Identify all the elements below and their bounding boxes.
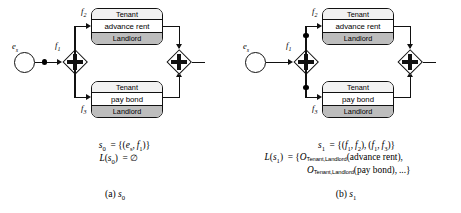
task-lane-landlord-b: Landlord	[323, 33, 393, 44]
state-formula-b-line1: s1 = {(f1, f2), (f1, f3)}	[231, 140, 461, 152]
task-pay-bond: Tenant pay bond Landlord	[91, 81, 163, 118]
task-lane-landlord-2: Landlord	[92, 106, 162, 117]
top-flow-label-f2-b: f2	[312, 6, 317, 18]
figure-panel-a: es f1	[0, 0, 230, 213]
task-name-pay-bond-b: pay bond	[323, 93, 393, 106]
join-parallel-gateway-plus-icon-vertical	[177, 54, 181, 70]
sequence-flow-advance-rent-to-join-h	[163, 26, 180, 27]
bpmn-diagram-a: es f1	[0, 0, 230, 128]
sequence-flow-split-up-vertical-b	[305, 26, 306, 62]
split-gateway-label-b: f1	[286, 40, 291, 52]
figure-container: es f1	[0, 0, 461, 213]
bottom-flow-label-f3: f3	[81, 103, 86, 115]
join-gateway-b	[397, 49, 423, 75]
roles-subscript-paybond: Tenant,Landlord	[314, 169, 354, 175]
subcaption-a: (a) s0	[0, 188, 230, 201]
task-lane-landlord-2-b: Landlord	[323, 106, 393, 117]
task-pay-bond-b: Tenant pay bond Landlord	[322, 81, 394, 118]
sequence-flow-pay-bond-to-join-h	[163, 97, 180, 98]
task-name-pay-bond: pay bond	[92, 93, 162, 106]
sequence-flow-pay-bond-to-join-v	[179, 76, 180, 97]
task-name-advance-rent: advance rent	[92, 20, 162, 33]
bpmn-diagram-b: es f1	[231, 0, 461, 128]
sequence-flow-join-outgoing-b	[423, 62, 436, 63]
sequence-flow-split-down-vertical	[74, 62, 75, 98]
sequence-flow-pay-bond-to-join-h-b	[394, 97, 411, 98]
sequence-flow-start-to-split-b	[266, 62, 290, 63]
sequence-flow-join-outgoing	[192, 62, 205, 63]
start-event-label: es	[12, 41, 18, 53]
task-lane-landlord: Landlord	[92, 33, 162, 44]
state-formula-a-line1: s0 = {(es, f1)}	[0, 140, 230, 152]
task-lane-tenant-2-b: Tenant	[323, 82, 393, 93]
state-formula-a-line2: L(s0) = ∅	[0, 152, 230, 165]
token-on-upper-branch-flow	[303, 33, 308, 38]
start-event-label-b: es	[243, 41, 249, 53]
token-on-lower-branch-flow	[303, 85, 308, 90]
state-formula-b-line2: L(s1) = {OTenant,Landlord(advance rent),	[255, 152, 403, 164]
bottom-flow-label-f3-b: f3	[312, 103, 317, 115]
join-parallel-gateway-plus-icon-vertical-b	[408, 54, 412, 70]
task-lane-tenant: Tenant	[92, 9, 162, 20]
subcaption-b: (b) s1	[231, 188, 461, 201]
state-formula-b-line3: OTenant,Landlord(pay bond), ...}	[307, 165, 411, 175]
top-flow-label-f2: f2	[81, 6, 86, 18]
roles-subscript-advance: Tenant,Landlord	[307, 156, 347, 162]
sequence-flow-split-up-vertical	[74, 26, 75, 62]
task-advance-rent: Tenant advance rent Landlord	[91, 8, 163, 45]
task-advance-rent-b: Tenant advance rent Landlord	[322, 8, 394, 45]
task-lane-tenant-b: Tenant	[323, 9, 393, 20]
task-lane-tenant-2: Tenant	[92, 82, 162, 93]
sequence-flow-advance-rent-to-join-h-b	[394, 26, 411, 27]
sequence-flow-pay-bond-to-join-v-b	[410, 76, 411, 97]
task-name-advance-rent-b: advance rent	[323, 20, 393, 33]
token-on-start-flow	[42, 59, 47, 64]
split-gateway-label: f1	[55, 40, 60, 52]
join-gateway	[166, 49, 192, 75]
figure-panel-b: es f1	[231, 0, 461, 213]
start-event-circle-b	[245, 52, 266, 73]
start-event-circle	[14, 52, 35, 73]
sequence-flow-split-down-vertical-b	[305, 62, 306, 98]
